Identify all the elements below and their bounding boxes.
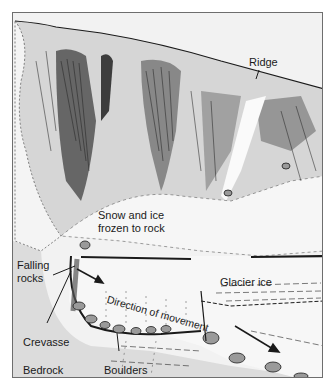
- label-snow-ice-line2: frozen to rock: [98, 222, 165, 234]
- label-ridge: Ridge: [249, 56, 278, 68]
- diagram-frame: Ridge Snow and ice frozen to rock Fallin…: [12, 12, 323, 378]
- label-falling-rocks-line1: Falling: [17, 259, 49, 271]
- label-bedrock: Bedrock: [23, 364, 63, 376]
- label-crevasse: Crevasse: [23, 336, 69, 348]
- label-snow-ice-line1: Snow and ice: [98, 209, 164, 221]
- label-glacier-ice: Glacier ice: [220, 276, 272, 288]
- label-falling-rocks-line2: rocks: [17, 272, 43, 284]
- label-boulders: Boulders: [104, 364, 147, 376]
